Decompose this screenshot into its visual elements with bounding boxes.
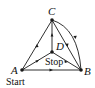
node-d — [50, 50, 54, 54]
node-b — [79, 68, 83, 72]
label-a: A — [10, 64, 18, 76]
arrow-d-c-icon — [51, 33, 54, 37]
node-c — [50, 18, 54, 22]
start-label: Start — [6, 76, 25, 87]
arrow-a-c-icon — [35, 44, 38, 48]
label-b: B — [84, 65, 91, 77]
graph-diagram: A B C D Stop Start — [0, 0, 95, 88]
arrow-a-d-icon — [35, 60, 39, 63]
stop-label: Stop — [45, 56, 63, 67]
label-c: C — [48, 5, 56, 17]
arrow-a-b-icon — [50, 69, 54, 72]
node-a — [20, 68, 24, 72]
label-d: D — [55, 40, 64, 52]
